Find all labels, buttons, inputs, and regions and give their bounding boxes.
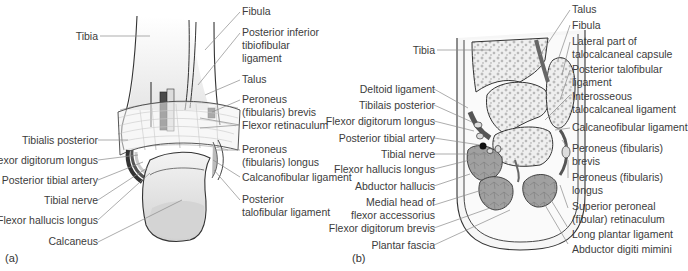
label-tibial-nerve-b: Tibial nerve xyxy=(381,148,435,161)
label-deltoid-ligament: Deltoid ligament xyxy=(360,83,435,96)
label-flexor-retinaculum: Flexor retinaculum xyxy=(242,119,328,132)
label-tibialis-posterior-b: Tibilais posterior xyxy=(359,99,435,112)
label-peroneus-longus-b: Peroneus (fibularis) longus xyxy=(572,171,667,197)
label-peroneus-longus-a: Peroneus (fibularis) longus xyxy=(242,143,332,169)
label-peroneus-brevis-a: Peroneus (fibularis) brevis xyxy=(242,93,332,119)
label-abductor-hallucis: Abductor hallucis xyxy=(355,180,435,193)
label-posterior-talofibular-ligament-b: Posterior talofibular ligament xyxy=(572,63,672,89)
label-flexor-digitorum-longus-a: Flexor digitorum longus xyxy=(0,154,98,167)
panel-b-tag: (b) xyxy=(352,252,365,264)
coronal-section-drawing xyxy=(434,10,585,250)
posterior-ankle-drawing xyxy=(98,12,240,242)
label-medial-head-flexor-accessorius: Medial head of flexor accessorius xyxy=(345,196,435,222)
label-tibialis-posterior-a: Tibialis posterior xyxy=(22,134,98,147)
label-lateral-talocalcaneal-capsule: Lateral part of talocalcaneal capsule xyxy=(572,35,680,61)
label-flexor-hallucis-longus-a: Flexor hallucis longus xyxy=(0,214,98,227)
label-posterior-tibial-artery-b: Posterior tibial artery xyxy=(339,132,435,145)
label-interosseous-talocalcaneal-ligament: Interosseous talocalcaneal ligament xyxy=(572,90,680,116)
label-peroneus-brevis-b: Peroneus (fibularis) brevis xyxy=(572,142,667,168)
label-long-plantar-ligament: Long plantar ligament xyxy=(572,228,673,241)
label-superior-peroneal-retinaculum: Superior peroneal (fibular) retinaculum xyxy=(572,200,680,226)
label-posterior-inferior-tibiofibular-ligament: Posterior inferior tibiofibular ligament xyxy=(242,26,324,65)
label-abductor-digiti-minimi: Abductor digiti mimini xyxy=(572,243,672,256)
label-tibia-b: Tibia xyxy=(413,44,435,57)
label-plantar-fascia: Plantar fascia xyxy=(371,239,435,252)
label-flexor-digitorum-longus-b: Flexor digitorum longus xyxy=(326,115,435,128)
panel-a-tag: (a) xyxy=(5,252,18,264)
label-fibula-a: Fibula xyxy=(242,5,271,18)
label-posterior-talofibular-ligament-a: Posterior talofibular ligament xyxy=(242,193,332,219)
label-talus-a: Talus xyxy=(242,73,267,86)
label-flexor-hallucis-longus-b: Flexor hallucis longus xyxy=(334,163,435,176)
label-calcaneus-a: Calcaneus xyxy=(48,235,98,248)
posterior-tibial-artery-dot xyxy=(480,143,487,150)
label-flexor-digitorum-brevis: Flexor digitorum brevis xyxy=(329,222,435,235)
label-tibial-nerve-a: Tibial nerve xyxy=(44,194,98,207)
label-tibia-a: Tibia xyxy=(76,30,98,43)
label-calcaneofibular-ligament: Calcaneofibular ligament xyxy=(572,121,688,134)
label-posterior-tibial-artery-a: Posterior tibial artery xyxy=(2,174,98,187)
label-fibula-b: Fibula xyxy=(572,19,601,32)
label-talus-b: Talus xyxy=(572,3,597,16)
